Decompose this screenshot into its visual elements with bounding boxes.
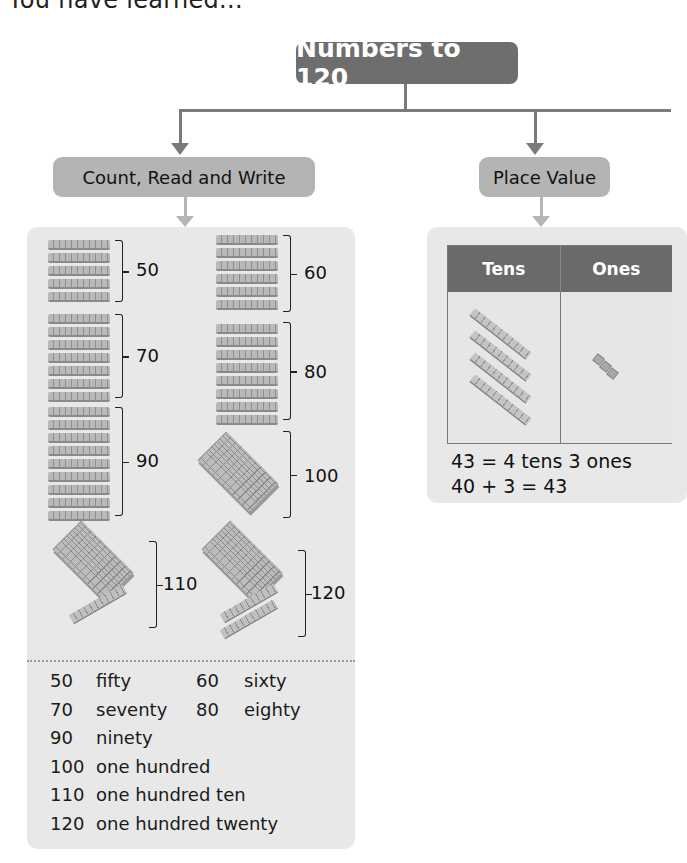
dotted-divider: [27, 660, 355, 662]
table-body: [448, 292, 672, 443]
group-label-120: 120: [311, 582, 345, 603]
group-label-110: 110: [163, 573, 197, 594]
header-tens: Tens: [448, 246, 560, 292]
word-num: 100: [50, 753, 96, 782]
tens-rods-80: [216, 324, 278, 428]
words-row: 100 one hundred: [50, 753, 301, 782]
words-row: 50 fifty 60 sixty: [50, 667, 301, 696]
brace-icon: [115, 240, 123, 302]
branch-place-value: Place Value: [479, 157, 610, 197]
group-label-50: 50: [136, 259, 159, 280]
arrow-down-icon: [532, 216, 550, 227]
ones-cell: [560, 292, 673, 443]
tens-rods-50: [48, 240, 110, 305]
arrow-down-icon: [526, 143, 544, 155]
root-node-numbers-to-120: Numbers to 120: [296, 42, 518, 84]
word-text: fifty: [96, 667, 196, 696]
word-num: 50: [50, 667, 96, 696]
section-heading: You have learned...: [8, 0, 243, 14]
brace-icon: [283, 235, 291, 312]
place-value-table: Tens Ones: [447, 245, 672, 444]
tens-cell: [448, 292, 560, 443]
connector-horizontal: [179, 109, 671, 112]
word-text: one hundred twenty: [96, 810, 278, 839]
brace-icon: [283, 431, 291, 518]
tens-rods-90: [48, 407, 110, 524]
table-header: Tens Ones: [448, 246, 672, 292]
word-num: 90: [50, 724, 96, 753]
brace-icon: [115, 407, 123, 516]
word-text: ninety: [96, 724, 153, 753]
words-row: 70 seventy 80 eighty: [50, 696, 301, 725]
arrow-down-icon: [171, 143, 189, 155]
group-label-70: 70: [136, 345, 159, 366]
word-text: one hundred: [96, 753, 210, 782]
word-num: 120: [50, 810, 96, 839]
words-row: 120 one hundred twenty: [50, 810, 301, 839]
group-label-90: 90: [136, 450, 159, 471]
word-num: 110: [50, 781, 96, 810]
arrow-down-icon: [176, 216, 194, 227]
group-label-60: 60: [304, 262, 327, 283]
place-value-equation-1: 43 = 4 tens 3 ones: [451, 450, 632, 472]
words-row: 110 one hundred ten: [50, 781, 301, 810]
word-num: 70: [50, 696, 96, 725]
connector-root-stem: [404, 84, 407, 111]
word-text: eighty: [244, 696, 301, 725]
brace-icon: [149, 541, 157, 628]
header-ones: Ones: [560, 246, 673, 292]
branch-count-read-write: Count, Read and Write: [53, 157, 315, 197]
number-words-list: 50 fifty 60 sixty 70 seventy 80 eighty 9…: [50, 667, 301, 838]
group-label-80: 80: [304, 361, 327, 382]
place-value-equation-2: 40 + 3 = 43: [451, 475, 567, 497]
tens-rods-70: [48, 314, 110, 405]
word-text: seventy: [96, 696, 196, 725]
connector-to-place-value: [534, 109, 537, 145]
word-text: one hundred ten: [96, 781, 246, 810]
words-row: 90 ninety: [50, 724, 301, 753]
word-text: sixty: [244, 667, 287, 696]
word-num: 60: [196, 667, 244, 696]
word-num: 80: [196, 696, 244, 725]
brace-icon: [298, 550, 306, 637]
tens-rods-60: [216, 235, 278, 313]
brace-icon: [115, 314, 123, 398]
group-label-100: 100: [304, 465, 338, 486]
brace-icon: [283, 322, 291, 420]
connector-to-count: [179, 109, 182, 145]
